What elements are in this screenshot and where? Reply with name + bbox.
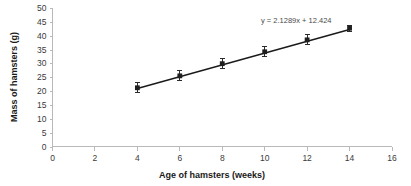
y-tick-label: 15 — [37, 100, 47, 110]
y-tick-label: 40 — [37, 31, 47, 41]
regression-line — [137, 30, 349, 89]
data-point-marker — [347, 26, 352, 31]
y-tick-label: 0 — [42, 142, 47, 152]
x-tick-label: 0 — [50, 153, 55, 163]
y-tick-label: 50 — [37, 3, 47, 13]
x-tick-label: 14 — [345, 153, 355, 163]
x-axis-title: Age of hamsters (weeks) — [159, 170, 265, 180]
x-tick-label: 8 — [220, 153, 225, 163]
y-tick-label: 5 — [42, 128, 47, 138]
x-tick-label: 16 — [387, 153, 397, 163]
x-tick-label: 6 — [177, 153, 182, 163]
scatter-plot-svg: 05101520253035404550 0246810121416 y = 2… — [0, 0, 411, 186]
y-tick-label: 25 — [37, 72, 47, 82]
y-tick-label: 10 — [37, 114, 47, 124]
y-tick-label: 45 — [37, 17, 47, 27]
x-tick-label: 2 — [93, 153, 98, 163]
x-tick-label: 10 — [260, 153, 270, 163]
y-axis-title: Mass of hamsters (g) — [9, 32, 19, 122]
y-tick-label: 35 — [37, 45, 47, 55]
data-point-marker — [177, 73, 182, 78]
y-tick-label: 30 — [37, 58, 47, 68]
data-point-marker — [262, 49, 267, 54]
chart-container: 05101520253035404550 0246810121416 y = 2… — [0, 0, 411, 186]
data-point-marker — [135, 85, 140, 90]
y-tick-label: 20 — [37, 86, 47, 96]
trendline-equation-label: y = 2.1289x + 12.424 — [261, 16, 331, 25]
trend-line-group — [137, 30, 349, 89]
data-point-marker — [305, 37, 310, 42]
x-axis-ticks: 0246810121416 — [50, 147, 397, 163]
x-tick-label: 12 — [302, 153, 312, 163]
data-point-marker — [220, 61, 225, 66]
y-axis-ticks: 05101520253035404550 — [37, 3, 52, 152]
x-tick-label: 4 — [135, 153, 140, 163]
